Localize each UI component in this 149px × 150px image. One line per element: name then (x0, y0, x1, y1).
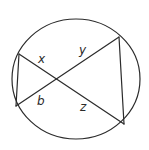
chord-top-left-to-bottom-right (19, 54, 124, 124)
left-side-segment (16, 54, 19, 106)
segment-label-x: x (37, 52, 46, 66)
segment-label-y: y (78, 43, 87, 57)
segment-label-b: b (37, 94, 45, 108)
chord-bottom-left-to-top-right (16, 37, 119, 106)
circle (12, 19, 140, 139)
segment-label-z: z (79, 100, 87, 114)
right-side-segment (119, 37, 124, 124)
intersecting-chords-diagram: x y b z (0, 0, 149, 150)
